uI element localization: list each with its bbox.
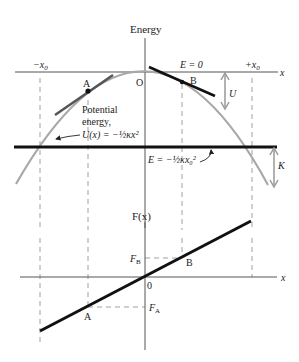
point-b-label-bottom: B: [186, 257, 193, 268]
point-a-label-top: A: [83, 78, 91, 89]
point-a-label-bottom: A: [84, 311, 92, 322]
k-arrow: [270, 148, 278, 187]
point-b-label-top: B: [190, 75, 197, 86]
force-axis-label: F(x): [132, 210, 151, 223]
potential-label-line2: energy,: [82, 116, 111, 127]
origin-label-top: O: [136, 77, 143, 88]
pos-x0-label: +x0: [245, 59, 260, 72]
k-label: K: [277, 160, 286, 171]
dashed-guides-bottom: [40, 238, 252, 345]
energy-line-formula: E = −½κx₀²: [147, 154, 197, 165]
e-zero-label: E = 0: [179, 59, 203, 70]
neg-x0-label: −x0: [33, 59, 48, 72]
fa-label: FA: [148, 302, 160, 315]
energy-callout-arrow: [200, 150, 211, 162]
potential-formula: U(x) = −½κx²: [82, 129, 140, 141]
dashed-guides-top: [40, 78, 252, 230]
x-axis-label-bottom: x: [280, 272, 286, 283]
potential-label-line1: Potential: [82, 104, 118, 115]
fb-label: FB: [129, 253, 141, 266]
energy-plot: Energy x O −x0 +x0 E = 0 A B U K Potenti…: [14, 23, 286, 230]
point-b-marker: [180, 80, 184, 84]
point-a-marker: [85, 88, 90, 93]
origin-label-bottom: 0: [147, 280, 152, 291]
potential-callout-arrow: [56, 135, 80, 139]
energy-force-diagram: Energy x O −x0 +x0 E = 0 A B U K Potenti…: [0, 0, 299, 362]
u-arrow: [221, 73, 229, 109]
u-label: U: [229, 88, 237, 99]
energy-axis-label: Energy: [130, 23, 162, 35]
force-plot: F(x) x 0 FB FA A B: [20, 210, 286, 350]
x-axis-label-top: x: [279, 67, 285, 78]
